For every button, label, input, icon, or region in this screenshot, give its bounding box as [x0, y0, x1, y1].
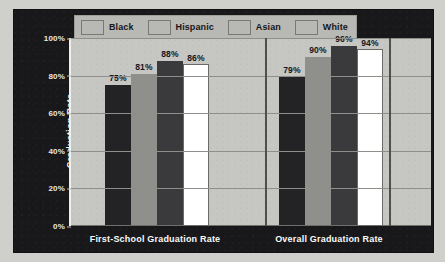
- bar-white-group-1[interactable]: 86%: [183, 64, 209, 226]
- chart-legend: Black Hispanic Asian White: [74, 15, 357, 39]
- bar-value-label: 94%: [361, 38, 379, 48]
- legend-label-hispanic: Hispanic: [176, 22, 214, 32]
- gridline: [71, 76, 431, 77]
- bar-value-label: 86%: [187, 53, 205, 63]
- bar-asian-group-2[interactable]: 96%: [331, 46, 357, 226]
- legend-item-asian[interactable]: Asian: [228, 20, 281, 35]
- bar-asian-group-1[interactable]: 88%: [157, 61, 183, 226]
- x-axis-label-group-1: First-School Graduation Rate: [65, 234, 245, 244]
- plot-area: 75%81%88%86%79%90%96%94% 0%20%40%60%80%1…: [69, 38, 431, 226]
- legend-swatch-black: [81, 20, 104, 35]
- y-axis-tick: 20%: [48, 184, 65, 193]
- chart-panel: Graduation Rate Black Hispanic Asian Whi…: [13, 9, 434, 253]
- y-axis-tick: 40%: [48, 146, 65, 155]
- bar-value-label: 81%: [135, 62, 153, 72]
- bar-value-label: 79%: [283, 65, 301, 75]
- legend-label-black: Black: [109, 22, 134, 32]
- group-separator: [265, 38, 267, 226]
- legend-item-white[interactable]: White: [295, 20, 348, 35]
- y-axis-tick: 80%: [48, 71, 65, 80]
- legend-item-hispanic[interactable]: Hispanic: [148, 20, 214, 35]
- bar-value-label: 75%: [109, 73, 127, 83]
- bar-value-label: 88%: [161, 49, 179, 59]
- legend-swatch-hispanic: [148, 20, 171, 35]
- legend-label-white: White: [323, 22, 348, 32]
- bar-value-label: 90%: [309, 45, 327, 55]
- bar-container: 75%81%88%86%79%90%96%94%: [71, 38, 431, 226]
- gridline: [71, 151, 431, 152]
- y-axis-tick: 60%: [48, 109, 65, 118]
- gridline: [71, 113, 431, 114]
- bar-black-group-1[interactable]: 75%: [105, 85, 131, 226]
- gridline: [71, 38, 431, 39]
- legend-item-black[interactable]: Black: [81, 20, 134, 35]
- bar-hispanic-group-2[interactable]: 90%: [305, 57, 331, 226]
- plot-right-rule: [389, 38, 391, 226]
- y-axis-tick: 100%: [44, 34, 65, 43]
- chart-screenshot: Graduation Rate Black Hispanic Asian Whi…: [0, 0, 445, 262]
- legend-label-asian: Asian: [256, 22, 281, 32]
- legend-swatch-asian: [228, 20, 251, 35]
- x-axis-label-group-2: Overall Graduation Rate: [239, 234, 419, 244]
- y-axis-tick: 0%: [53, 222, 65, 231]
- gridline: [71, 188, 431, 189]
- legend-swatch-white: [295, 20, 318, 35]
- axis-baseline: [71, 225, 431, 226]
